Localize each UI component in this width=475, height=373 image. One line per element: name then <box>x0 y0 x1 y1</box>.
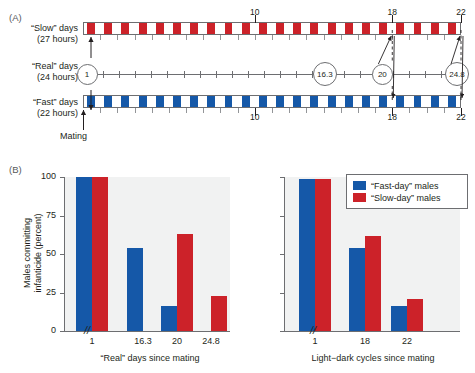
cycle-tick <box>341 35 342 40</box>
cycle-block <box>345 96 353 107</box>
legend-label-slow-day: “Slow-day” males <box>371 193 441 203</box>
cycle-block <box>173 96 181 107</box>
cycle-tick <box>220 108 221 113</box>
arrow-slow18-to-fast18 <box>393 36 394 98</box>
cycle-block <box>276 96 284 107</box>
real-day-tick <box>360 71 361 78</box>
cycle-tick <box>289 35 290 40</box>
real-day-tick <box>425 71 426 78</box>
real-day-tick <box>264 71 265 78</box>
y-axis-tick <box>60 293 64 294</box>
cycle-block <box>328 23 336 34</box>
cycle-tick <box>358 108 359 113</box>
cycle-block <box>139 96 147 107</box>
cycle-tick <box>152 108 153 113</box>
y-axis-tick-label: 100 <box>28 171 56 181</box>
cycle-tick <box>409 35 410 40</box>
cycle-tick <box>392 35 393 40</box>
real-day-tick <box>216 71 217 78</box>
cycle-block <box>259 23 267 34</box>
cycle-tick <box>427 108 428 113</box>
cycle-block <box>225 96 233 107</box>
timeline-major-tick <box>392 15 393 23</box>
cycle-tick <box>375 35 376 40</box>
legend-item-slow-day: “Slow-day” males <box>353 192 461 203</box>
y-axis-tick <box>60 216 64 217</box>
left-chart-x-axis-title: “Real” days since mating <box>60 353 240 363</box>
cycle-block <box>87 23 95 34</box>
real-day-tick <box>409 71 410 78</box>
cycle-block <box>259 96 267 107</box>
left-chart-axis-break: // <box>84 324 90 336</box>
cycle-block <box>173 23 181 34</box>
y-axis-tick-label: 0 <box>28 325 56 335</box>
y-axis-tick-label: 25 <box>28 287 56 297</box>
cycle-block <box>396 96 404 107</box>
legend-swatch-red-icon <box>353 193 366 202</box>
y-axis-tick <box>60 331 64 332</box>
cycle-block <box>328 96 336 107</box>
cycle-block <box>225 23 233 34</box>
x-axis-tick-label: 1 <box>72 336 112 346</box>
cycle-tick <box>272 108 273 113</box>
x-axis-tick-label: 18 <box>345 336 385 346</box>
cycle-tick <box>100 108 101 113</box>
cycle-block <box>104 96 112 107</box>
y-axis-tick-label: 50 <box>28 248 56 258</box>
x-axis-tick-label: 22 <box>387 336 427 346</box>
cycle-block <box>362 23 370 34</box>
cycle-block <box>87 96 95 107</box>
cycle-tick <box>444 108 445 113</box>
cycle-block <box>207 96 215 107</box>
cycle-block <box>448 23 456 34</box>
cycle-block <box>310 96 318 107</box>
timeline-major-tick <box>392 108 393 116</box>
cycle-tick <box>358 35 359 40</box>
cycle-tick <box>169 35 170 40</box>
cycle-tick <box>324 35 325 40</box>
row-label-fast-line1: “Fast” days <box>0 97 78 107</box>
cycle-block <box>396 23 404 34</box>
chart-bar <box>365 236 381 331</box>
cycle-tick <box>135 35 136 40</box>
chart-bar <box>349 248 365 331</box>
timeline-major-tick <box>461 15 462 23</box>
cycle-tick <box>220 35 221 40</box>
cycle-tick <box>100 35 101 40</box>
y-axis-tick <box>60 254 64 255</box>
left-chart-y-axis <box>64 177 65 332</box>
y-axis-tick <box>280 177 284 178</box>
arrow-20-to-slow18 <box>378 36 391 64</box>
real-day-tick <box>167 71 168 78</box>
cycle-tick <box>255 35 256 40</box>
cycle-tick <box>169 108 170 113</box>
slow-days-track <box>83 22 461 35</box>
chart-bar <box>299 179 315 331</box>
x-axis-tick-label: 24.8 <box>191 336 231 346</box>
cycle-tick <box>427 35 428 40</box>
real-day-tick <box>296 71 297 78</box>
mating-label: Mating <box>60 131 87 141</box>
chart-bar <box>92 177 108 331</box>
cycle-block <box>431 23 439 34</box>
cycle-tick <box>272 35 273 40</box>
fast-days-track <box>83 95 461 108</box>
cycle-tick <box>135 108 136 113</box>
cycle-tick <box>117 108 118 113</box>
real-day-tick <box>200 71 201 78</box>
cycle-block <box>345 23 353 34</box>
row-label-slow-line2: (27 hours) <box>0 34 78 44</box>
real-day-tick <box>248 71 249 78</box>
cycle-tick <box>444 35 445 40</box>
y-axis-tick <box>280 331 284 332</box>
cycle-block <box>190 96 198 107</box>
cycle-tick <box>341 108 342 113</box>
real-day-tick <box>344 71 345 78</box>
timeline-major-tick <box>255 108 256 116</box>
cycle-tick <box>238 35 239 40</box>
y-axis-tick <box>60 177 64 178</box>
left-chart-plot-area <box>65 177 230 331</box>
cycle-block <box>379 23 387 34</box>
cycle-tick <box>186 35 187 40</box>
cycle-block <box>139 23 147 34</box>
